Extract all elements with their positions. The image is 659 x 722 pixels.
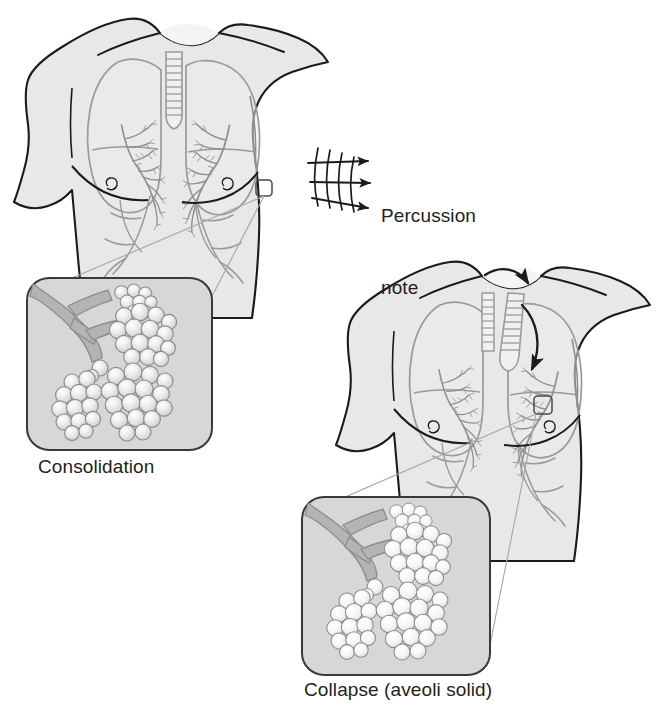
- alveoli-inset-collapse: [302, 497, 490, 675]
- percussion-arc-4: [351, 157, 354, 212]
- alveoli-inset-consolidation: [27, 278, 212, 450]
- consolidation-caption: Consolidation: [38, 455, 154, 479]
- upper-torso-consolidation: [14, 19, 370, 318]
- percussion-arrow-1: [308, 161, 368, 163]
- percussion-note-line-1: Percussion: [381, 204, 476, 228]
- trachea: [166, 52, 182, 129]
- respiratory-signs-figure: Percussion note Consolidation Collapse (…: [0, 0, 659, 722]
- percussion-sound-waves: [308, 148, 370, 212]
- percussion-arc-2: [327, 150, 330, 208]
- percussion-arc-1: [315, 148, 318, 206]
- collapse-caption: Collapse (aveoli solid): [304, 678, 492, 702]
- percussion-arrow-2: [310, 182, 370, 183]
- vertebral-column: [482, 293, 494, 351]
- percussion-note-line-2: note: [381, 276, 476, 300]
- percussion-note-label: Percussion note: [381, 156, 476, 348]
- figure-illustration: [0, 0, 659, 722]
